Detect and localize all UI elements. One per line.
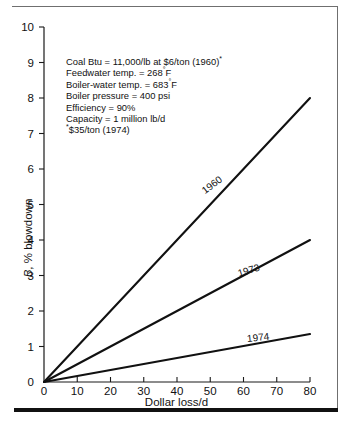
annotation-line-1: Coal Btu = 11,000/lb at $6/ton (1960)*	[66, 56, 222, 67]
y-tick-label: 8	[12, 92, 34, 104]
annotation-line-7-text: $35/ton (1974)	[69, 124, 130, 135]
series-label-1974: 1974	[246, 331, 269, 344]
y-axis-title-rest: , % blowdown	[22, 199, 34, 270]
y-tick-label: 0	[12, 376, 34, 388]
y-axis-title-symbol: B	[22, 270, 34, 278]
annotation-line-4: Boiler pressure = 400 psi	[66, 90, 222, 101]
annotation-line-2-text: Feedwater temp. = 268	[66, 67, 163, 78]
annotation-line-3-tail: F	[171, 79, 177, 90]
chart-annotation-block: Coal Btu = 11,000/lb at $6/ton (1960)* F…	[66, 56, 222, 136]
series-line-1974	[44, 334, 310, 382]
y-tick-label: 1	[12, 341, 34, 353]
annotation-line-7: *$35/ton (1974)	[66, 124, 222, 135]
annotation-line-1-text: Coal Btu = 11,000/lb at $6/ton (1960)	[66, 56, 219, 67]
y-tick-label: 7	[12, 128, 34, 140]
y-axis-title: B, % blowdown	[22, 158, 34, 318]
annotation-line-2: Feedwater temp. = 268°F	[66, 67, 222, 78]
annotation-line-5: Efficiency = 90%	[66, 102, 222, 113]
figure-container: 01020304050607080 012345678910 Dollar lo…	[0, 0, 353, 424]
annotation-line-3-text: Boiler-water temp. = 683	[66, 79, 168, 90]
series-group	[44, 98, 310, 382]
series-line-1973	[44, 240, 310, 382]
y-tick-label: 9	[12, 57, 34, 69]
annotation-line-6: Capacity = 1 million lb/d	[66, 113, 222, 124]
x-axis-title: Dollar loss/d	[0, 396, 353, 408]
series-line-1960	[44, 98, 310, 382]
y-tick-label: 10	[12, 21, 34, 33]
annotation-line-3: Boiler-water temp. = 683°F	[66, 79, 222, 90]
annotation-line-1-asterisk: *	[219, 55, 222, 62]
